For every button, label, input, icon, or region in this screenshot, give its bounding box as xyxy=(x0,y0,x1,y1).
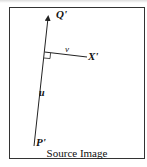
label-u: u xyxy=(39,88,45,98)
label-q-prime: Q' xyxy=(56,9,67,20)
label-v: v xyxy=(65,45,69,54)
u-axis-line xyxy=(34,18,48,146)
right-angle-icon xyxy=(44,53,51,59)
figure-caption: Source Image xyxy=(9,148,145,159)
geometry-diagram xyxy=(0,0,147,167)
label-p-prime: P' xyxy=(36,137,46,148)
label-x-prime: X' xyxy=(88,51,98,62)
